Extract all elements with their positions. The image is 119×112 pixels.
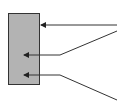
diagram-canvas <box>0 0 119 112</box>
gray-block <box>9 14 40 85</box>
